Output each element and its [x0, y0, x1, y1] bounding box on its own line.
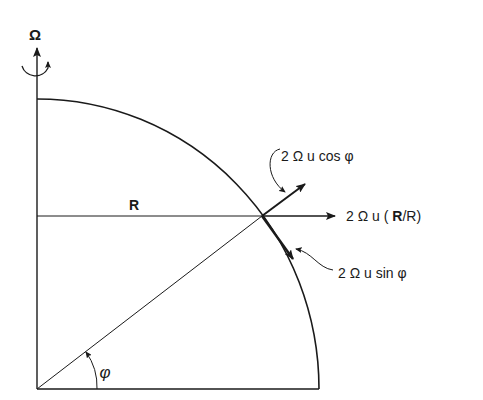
- omega-label: Ω: [29, 26, 41, 43]
- sin-vector-arrow: [262, 216, 293, 259]
- radial-vector-label: 2 Ω u ( R/R): [346, 208, 421, 224]
- cos-vector-label: 2 Ω u cos φ: [281, 148, 353, 164]
- sin-leader-line: [296, 249, 333, 270]
- angle-arc: [86, 352, 97, 389]
- cos-vector-arrow: [262, 184, 305, 216]
- radius-label: R: [129, 197, 139, 213]
- rotation-arrow-icon: [22, 62, 48, 76]
- coriolis-diagram: Ω R φ 2 Ω u ( R/R) 2 Ω u cos φ 2 Ω u sin…: [0, 0, 483, 400]
- angle-label: φ: [99, 363, 110, 382]
- latitude-line: [37, 216, 262, 389]
- sphere-quadrant: [37, 99, 319, 389]
- diagram-canvas: Ω R φ 2 Ω u ( R/R) 2 Ω u cos φ 2 Ω u sin…: [0, 0, 483, 400]
- sin-vector-label: 2 Ω u sin φ: [338, 265, 407, 281]
